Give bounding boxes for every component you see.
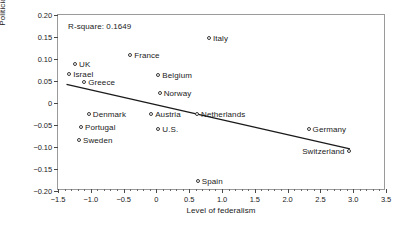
data-point-label: Austria: [155, 110, 181, 119]
x-axis-minor-tick: [334, 189, 335, 191]
data-point-label: Germany: [313, 124, 347, 133]
x-axis-minor-tick: [347, 189, 348, 191]
data-point-label: Norway: [164, 89, 192, 98]
x-axis-minor-tick: [281, 189, 282, 191]
x-axis-minor-tick: [248, 189, 249, 191]
y-axis-tick-label: 0: [48, 99, 52, 108]
data-point: [156, 127, 160, 131]
x-axis-tick: [255, 189, 256, 193]
x-axis-tick: [58, 189, 59, 193]
y-axis-tick-label: 0.20: [38, 11, 52, 20]
data-point-label: Sweden: [83, 136, 113, 145]
x-axis-tick: [288, 189, 289, 193]
x-axis-minor-tick: [301, 189, 302, 191]
x-axis-tick-label: 1.0: [217, 195, 227, 204]
y-axis-tick: [54, 147, 58, 148]
x-axis-tick-label: −0.5: [116, 195, 130, 204]
x-axis-tick-label: 3.0: [348, 195, 358, 204]
x-axis-minor-tick: [150, 189, 151, 191]
x-axis-tick-label: −1.0: [84, 195, 98, 204]
x-axis-minor-tick: [183, 189, 184, 191]
data-point-label: Italy: [213, 33, 228, 42]
x-axis-minor-tick: [215, 189, 216, 191]
x-axis-minor-tick: [235, 189, 236, 191]
data-point-label: Belgium: [162, 71, 192, 80]
data-point: [82, 80, 86, 84]
data-point-label: Spain: [202, 177, 223, 186]
data-point-label: Denmark: [93, 110, 126, 119]
x-axis-tick-label: 2.0: [283, 195, 293, 204]
x-axis-minor-tick: [117, 189, 118, 191]
x-axis-minor-tick: [104, 189, 105, 191]
x-axis-minor-tick: [307, 189, 308, 191]
x-axis-minor-tick: [294, 189, 295, 191]
x-axis-minor-tick: [163, 189, 164, 191]
y-axis-tick-label: −0.10: [34, 143, 52, 152]
data-point: [128, 53, 132, 57]
x-axis-tick: [386, 189, 387, 193]
data-point: [347, 149, 351, 153]
x-axis-minor-tick: [143, 189, 144, 191]
y-axis-tick: [54, 169, 58, 170]
x-axis-tick: [320, 189, 321, 193]
x-axis-minor-tick: [202, 189, 203, 191]
x-axis-tick: [353, 189, 354, 193]
x-axis-minor-tick: [261, 189, 262, 191]
data-point: [87, 112, 91, 116]
x-axis-minor-tick: [196, 189, 197, 191]
r-square-annotation: R-square: 0.1649: [68, 22, 131, 31]
x-axis-title: Level of federalism: [57, 206, 385, 215]
x-axis-tick: [189, 189, 190, 193]
x-axis-minor-tick: [137, 189, 138, 191]
data-point: [207, 36, 211, 40]
data-point-label: Netherlands: [201, 110, 245, 119]
x-axis-tick-label: −1.5: [51, 195, 65, 204]
x-axis-minor-tick: [209, 189, 210, 191]
x-axis-minor-tick: [97, 189, 98, 191]
y-axis-tick: [54, 37, 58, 38]
x-axis-minor-tick: [360, 189, 361, 191]
x-axis-minor-tick: [268, 189, 269, 191]
x-axis-tick-label: 0: [154, 195, 158, 204]
y-axis-tick-label: 0.10: [38, 55, 52, 64]
x-axis-tick-label: 2.5: [315, 195, 325, 204]
x-axis-minor-tick: [314, 189, 315, 191]
y-axis-tick: [54, 125, 58, 126]
x-axis-tick: [91, 189, 92, 193]
x-axis-tick-label: 0.5: [184, 195, 194, 204]
data-point: [79, 125, 83, 129]
x-axis-minor-tick: [340, 189, 341, 191]
x-axis-minor-tick: [78, 189, 79, 191]
x-axis-minor-tick: [130, 189, 131, 191]
y-axis-title: Politicians vs. institutions: [0, 0, 7, 40]
x-axis-tick-label: 3.5: [381, 195, 391, 204]
y-axis-tick-label: −0.05: [34, 121, 52, 130]
data-point-label: UK: [79, 60, 90, 69]
x-axis-minor-tick: [379, 189, 380, 191]
y-axis-tick: [54, 15, 58, 16]
data-point: [77, 138, 81, 142]
data-point: [156, 73, 160, 77]
x-axis-minor-tick: [65, 189, 66, 191]
data-point-label: U.S.: [162, 125, 178, 134]
data-point-label: Greece: [88, 77, 115, 86]
x-axis-minor-tick: [176, 189, 177, 191]
x-axis-minor-tick: [170, 189, 171, 191]
x-axis-minor-tick: [110, 189, 111, 191]
y-axis-tick-label: 0.05: [38, 77, 52, 86]
y-axis-tick-label: 0.15: [38, 33, 52, 42]
x-axis-minor-tick: [84, 189, 85, 191]
x-axis-minor-tick: [373, 189, 374, 191]
y-axis-tick-label: −0.20: [34, 187, 52, 196]
x-axis-minor-tick: [366, 189, 367, 191]
x-axis-minor-tick: [327, 189, 328, 191]
y-axis-tick: [54, 81, 58, 82]
data-point: [307, 127, 311, 131]
plot-area: R-square: 0.1649 0.200.150.100.050−0.05−…: [57, 14, 385, 190]
x-axis-tick-label: 1.5: [250, 195, 260, 204]
data-point-label: Switzerland: [302, 147, 344, 156]
data-point: [67, 72, 71, 76]
x-axis-tick: [156, 189, 157, 193]
data-point: [158, 91, 162, 95]
data-point-label: Portugal: [85, 123, 116, 132]
